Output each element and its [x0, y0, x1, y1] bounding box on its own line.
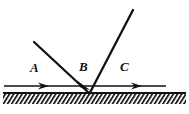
label-b: B [78, 59, 88, 74]
hatch-fill-band [3, 94, 186, 105]
label-a: A [29, 60, 39, 75]
reflection-diagram-figure: A B C [0, 0, 189, 114]
reflected-ray-line [90, 10, 134, 94]
ground-hatching [3, 94, 186, 105]
label-c: C [120, 59, 129, 74]
diagram-canvas: A B C [0, 0, 189, 114]
